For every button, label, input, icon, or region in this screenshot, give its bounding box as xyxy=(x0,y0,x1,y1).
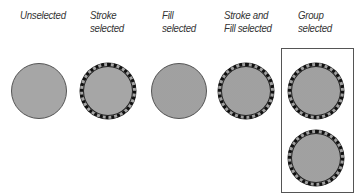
label-text: selected xyxy=(162,22,196,35)
circle-group-member-1 xyxy=(288,63,344,119)
label-text: Fill selected xyxy=(224,22,272,35)
label-text: Fill xyxy=(162,9,196,22)
label-text: Group xyxy=(298,9,332,22)
label-text: Stroke and xyxy=(224,9,272,22)
circle-group-member-2 xyxy=(288,130,344,186)
label-stroke-and-fill-selected: Stroke and Fill selected xyxy=(224,9,272,35)
label-text: Unselected xyxy=(20,9,66,21)
label-text: selected xyxy=(298,22,332,35)
circle-stroke-and-fill-selected xyxy=(218,63,274,119)
label-stroke-selected: Stroke selected xyxy=(90,9,124,35)
label-fill-selected: Fill selected xyxy=(162,9,196,35)
label-text: selected xyxy=(90,22,124,35)
label-unselected: Unselected xyxy=(20,9,66,22)
circle-unselected xyxy=(11,63,67,119)
label-text: Stroke xyxy=(90,9,124,22)
label-group-selected: Group selected xyxy=(298,9,332,35)
circle-fill-selected xyxy=(151,63,207,119)
circle-stroke-selected xyxy=(80,63,136,119)
